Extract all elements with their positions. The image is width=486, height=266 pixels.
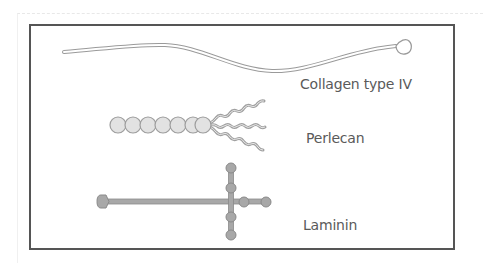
laminin-molecule bbox=[97, 163, 271, 240]
perlecan-beads bbox=[110, 117, 211, 133]
perlecan-tails bbox=[210, 101, 265, 150]
perlecan-label: Perlecan bbox=[306, 130, 364, 146]
diagram-canvas bbox=[0, 0, 486, 266]
laminin-label: Laminin bbox=[303, 217, 357, 233]
collagen-iv-molecule bbox=[64, 40, 411, 71]
collagen-iv-label: Collagen type IV bbox=[300, 76, 412, 92]
perlecan-molecule bbox=[110, 101, 265, 150]
